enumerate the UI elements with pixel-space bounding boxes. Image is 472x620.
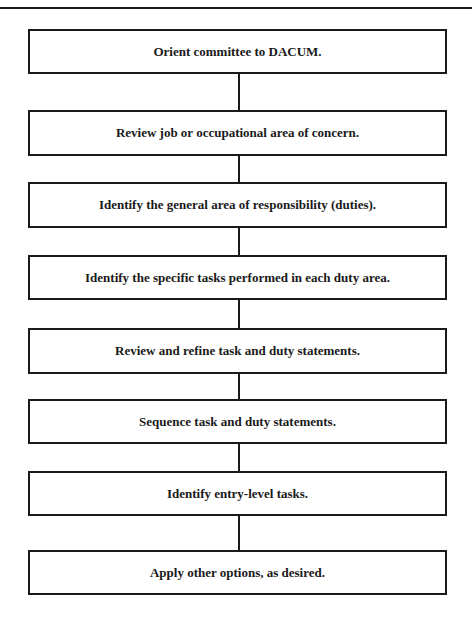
step-label: Apply other options, as desired. [150, 565, 325, 581]
step-label: Orient committee to DACUM. [153, 44, 321, 60]
step-label: Review job or occupational area of conce… [116, 125, 359, 141]
step-label: Identify entry-level tasks. [167, 486, 308, 502]
connector-line [238, 444, 240, 471]
step-apply-options: Apply other options, as desired. [28, 550, 447, 595]
step-orient-committee: Orient committee to DACUM. [28, 29, 447, 74]
connector-line [238, 74, 240, 110]
step-review-job: Review job or occupational area of conce… [28, 110, 447, 156]
step-identify-tasks: Identify the specific tasks performed in… [28, 255, 447, 300]
connector-line [238, 516, 240, 550]
connector-line [238, 374, 240, 399]
step-label: Identify the specific tasks performed in… [85, 270, 390, 286]
connector-line [238, 156, 240, 182]
step-label: Review and refine task and duty statemen… [115, 343, 360, 359]
step-entry-level: Identify entry-level tasks. [28, 471, 447, 516]
connector-line [238, 228, 240, 255]
header-rule [0, 7, 472, 9]
step-review-refine: Review and refine task and duty statemen… [28, 328, 447, 374]
step-label: Identify the general area of responsibil… [99, 197, 376, 213]
connector-line [238, 300, 240, 328]
step-sequence: Sequence task and duty statements. [28, 399, 447, 444]
step-identify-duties: Identify the general area of responsibil… [28, 182, 447, 228]
step-label: Sequence task and duty statements. [139, 414, 336, 430]
